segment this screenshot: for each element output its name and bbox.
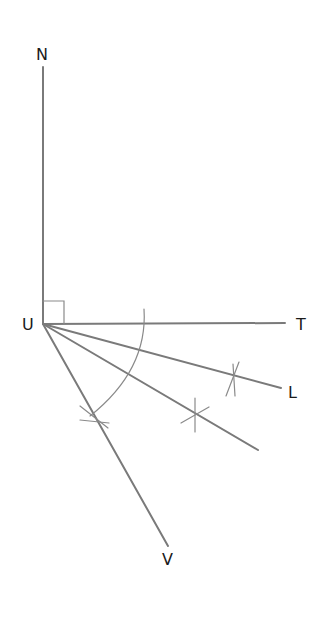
ray-uv: [43, 324, 168, 546]
right-angle-marker: [43, 301, 64, 324]
ray-ut: [43, 323, 285, 324]
construction-diagram: N U T L V: [0, 0, 326, 618]
arc-mark-l: [226, 362, 239, 396]
arc-mark-v: [80, 406, 109, 428]
label-v: V: [162, 550, 173, 569]
arc-mark-bisector: [181, 398, 209, 432]
label-l: L: [288, 383, 297, 402]
label-u: U: [22, 315, 34, 334]
label-t: T: [295, 315, 306, 334]
ray-bisector: [43, 324, 258, 450]
compass-arc: [90, 309, 144, 416]
label-n: N: [36, 45, 48, 64]
ray-ul: [43, 324, 281, 388]
